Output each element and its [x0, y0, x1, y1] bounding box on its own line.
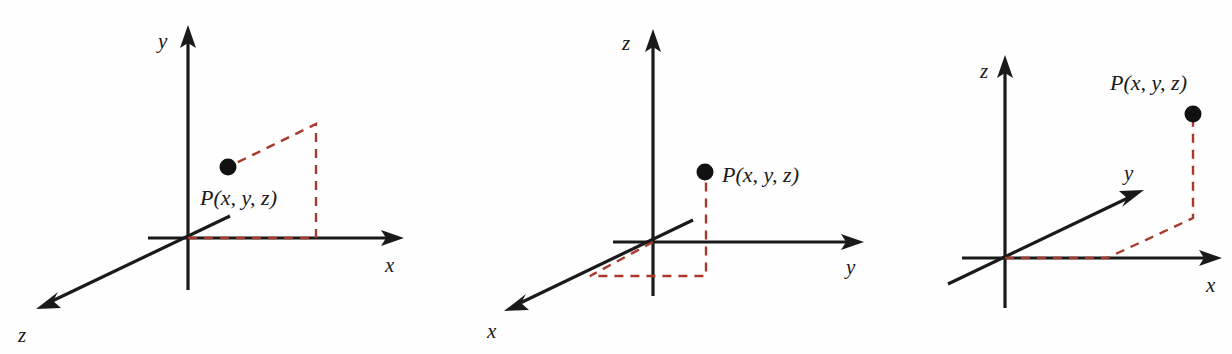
figure-sheet: y x z P(x, y, z)	[0, 0, 1232, 354]
y-axis-label: y	[1122, 161, 1134, 185]
z-axis	[997, 55, 1013, 308]
point-p-dot	[697, 164, 714, 181]
y-axis-arrowhead	[1119, 190, 1144, 207]
x-axis-label: x	[384, 253, 395, 277]
diagram-xyz-y-up: y x z P(x, y, z)	[0, 0, 420, 354]
y-axis-label: y	[156, 29, 168, 53]
z-axis-label: z	[17, 323, 26, 347]
diagram-xyz-z-up-x-right: z x y P(x, y, z)	[870, 0, 1232, 354]
z-axis-label: z	[621, 31, 630, 55]
x-axis-label: x	[1205, 273, 1216, 297]
point-p-label: P(x, y, z)	[199, 185, 277, 210]
x-axis-arrowhead	[504, 294, 529, 311]
z-axis	[645, 29, 661, 296]
point-p-dot	[220, 159, 237, 176]
diagram-xyz-z-up-y-right: z y x P(x, y, z)	[420, 0, 870, 354]
y-axis	[948, 190, 1144, 284]
z-axis-arrowhead	[36, 292, 61, 309]
projection-dashed-path	[1005, 114, 1193, 258]
x-axis-line	[516, 220, 693, 305]
point-p-label: P(x, y, z)	[1109, 70, 1187, 95]
y-axis-label: y	[844, 255, 856, 279]
point-p-label: P(x, y, z)	[721, 162, 799, 187]
x-axis	[504, 220, 693, 311]
projection-dashed-path	[188, 124, 316, 238]
diagram-1-canvas: y x z P(x, y, z)	[0, 0, 420, 354]
diagram-2-canvas: z y x P(x, y, z)	[420, 0, 870, 354]
y-axis	[180, 25, 196, 290]
x-axis-label: x	[486, 319, 497, 343]
diagram-3-canvas: z x y P(x, y, z)	[870, 0, 1232, 354]
z-axis	[36, 216, 230, 309]
z-axis-label: z	[979, 59, 988, 83]
y-axis-line	[948, 197, 1130, 284]
point-p-dot	[1185, 106, 1202, 123]
z-axis-line	[48, 216, 230, 303]
